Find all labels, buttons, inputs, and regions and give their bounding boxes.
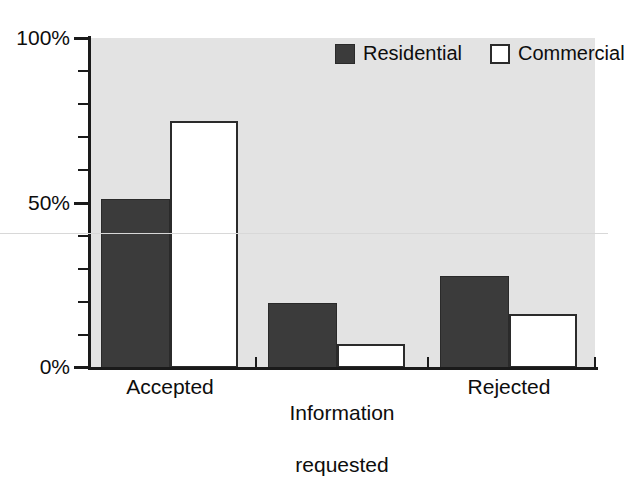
x-axis-label-information-requested: Information requested — [262, 374, 422, 478]
y-tick-100 — [74, 37, 89, 40]
bar-commercial-accepted — [170, 121, 238, 368]
y-tick-minor-30 — [78, 268, 89, 270]
bar-commercial-information-requested — [337, 344, 405, 368]
x-axis-label-information-requested-line1: Information — [289, 401, 394, 424]
legend-entry-residential: Residential — [335, 42, 462, 65]
legend-swatch-residential-icon — [335, 44, 355, 64]
y-axis-label-0: 0% — [0, 355, 70, 379]
x-axis-label-accepted: Accepted — [95, 374, 245, 400]
x-axis-label-rejected: Rejected — [434, 374, 584, 400]
y-axis-label-100-text: 100% — [16, 26, 70, 49]
chart-legend: Residential Commercial — [335, 42, 625, 65]
legend-entry-commercial: Commercial — [490, 42, 625, 65]
y-axis-label-50: 50% — [0, 191, 70, 215]
legend-swatch-commercial-icon — [490, 44, 510, 64]
y-tick-minor-80 — [78, 103, 89, 105]
y-tick-minor-20 — [78, 301, 89, 303]
y-tick-minor-40 — [78, 235, 89, 237]
legend-label-commercial: Commercial — [518, 42, 625, 65]
bar-residential-information-requested — [268, 303, 337, 368]
bar-residential-rejected — [440, 276, 509, 368]
bar-commercial-rejected — [509, 314, 577, 368]
y-axis-label-100: 100% — [0, 26, 70, 50]
y-tick-minor-10 — [78, 334, 89, 336]
x-axis-label-information-requested-line2: requested — [295, 453, 388, 476]
y-tick-minor-60 — [78, 169, 89, 171]
y-tick-0 — [74, 366, 89, 369]
y-axis-label-0-text: 0% — [40, 355, 70, 378]
y-tick-50 — [74, 202, 89, 205]
y-tick-minor-70 — [78, 136, 89, 138]
x-axis-line — [88, 367, 598, 370]
y-axis-label-50-text: 50% — [28, 191, 70, 214]
legend-label-residential: Residential — [363, 42, 462, 65]
scan-artifact-line — [0, 233, 608, 234]
y-tick-minor-90 — [78, 70, 89, 72]
bar-residential-accepted — [101, 199, 170, 368]
